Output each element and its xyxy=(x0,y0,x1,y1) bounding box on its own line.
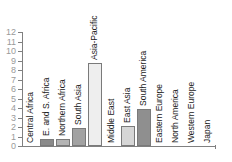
y-tick xyxy=(18,127,22,128)
y-tick-label: 9 xyxy=(2,57,16,66)
y-tick-label: 0 xyxy=(2,142,16,151)
category-label: South America xyxy=(139,51,148,106)
y-tick xyxy=(18,89,22,90)
y-tick xyxy=(18,108,22,109)
y-tick xyxy=(18,42,22,43)
bar-chart: 0123456789101112Central AfricaE. and S. … xyxy=(0,0,232,162)
y-tick-label: 7 xyxy=(2,76,16,85)
y-tick xyxy=(18,61,22,62)
y-tick-label: 6 xyxy=(2,85,16,94)
category-label: Central Africa xyxy=(26,92,35,143)
y-tick xyxy=(18,80,22,81)
category-label: Asia-Pacific xyxy=(90,16,99,60)
bar-east-asia xyxy=(121,126,135,146)
y-tick xyxy=(18,137,22,138)
y-tick-label: 2 xyxy=(2,123,16,132)
category-label: South Asia xyxy=(74,85,83,126)
y-tick xyxy=(18,146,22,147)
category-label: Eastern Europe xyxy=(155,84,164,143)
category-label: Japan xyxy=(203,120,212,143)
y-tick-label: 1 xyxy=(2,133,16,142)
y-tick-label: 3 xyxy=(2,114,16,123)
y-tick xyxy=(18,51,22,52)
bar-asia-pacific xyxy=(88,63,102,146)
y-tick-label: 5 xyxy=(2,95,16,104)
category-label: Middle East xyxy=(107,99,116,143)
category-label: East Asia xyxy=(123,88,132,123)
bar-south-asia xyxy=(72,128,86,146)
x-axis-end-tick xyxy=(215,145,216,149)
x-axis xyxy=(18,146,215,147)
category-label: Northern Africa xyxy=(58,79,67,136)
bar-e-and-s-africa xyxy=(40,139,54,146)
category-label: North America xyxy=(171,89,180,143)
y-axis xyxy=(22,32,23,147)
y-tick xyxy=(18,70,22,71)
bar-northern-africa xyxy=(56,139,70,146)
y-tick-label: 8 xyxy=(2,66,16,75)
y-tick xyxy=(18,32,22,33)
y-tick-label: 4 xyxy=(2,104,16,113)
category-label: Western Europe xyxy=(187,82,196,143)
y-tick-label: 12 xyxy=(2,28,16,37)
y-tick-label: 10 xyxy=(2,47,16,56)
bar-south-america xyxy=(137,109,151,146)
y-tick xyxy=(18,118,22,119)
y-tick-label: 11 xyxy=(2,38,16,47)
y-tick xyxy=(18,99,22,100)
category-label: E. and S. Africa xyxy=(42,77,51,136)
